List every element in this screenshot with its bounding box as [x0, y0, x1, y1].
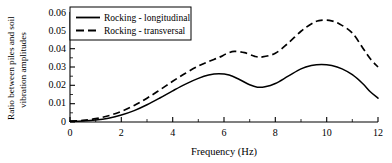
y-axis-title-line2: vibration amplitudes	[18, 32, 28, 108]
x-tick-label-8: 8	[273, 127, 278, 138]
legend: Rocking - longitudinal Rocking - transve…	[70, 7, 191, 40]
x-axis-title: Frequency (Hz)	[191, 146, 258, 158]
y-tick-label-0.06: 0.06	[49, 7, 67, 18]
x-tick-label-10: 10	[322, 127, 332, 138]
x-tick-label-6: 6	[222, 127, 227, 138]
y-tick-label-0.01: 0.01	[49, 97, 67, 108]
legend-label-rocking-transversal: Rocking - transversal	[104, 26, 186, 36]
x-axis-major-ticks	[70, 117, 378, 122]
y-axis-tick-labels: 0.06 0.05 0.04 0.03 0.02 0.01 0	[49, 7, 67, 127]
x-tick-label-4: 4	[170, 127, 175, 138]
y-tick-label-0.05: 0.05	[49, 25, 67, 36]
legend-label-rocking-longitudinal: Rocking - longitudinal	[104, 13, 190, 23]
y-tick-label-0: 0	[61, 116, 66, 127]
x-tick-label-2: 2	[119, 127, 124, 138]
x-tick-label-12: 12	[373, 127, 383, 138]
y-axis-title: Ratio between piles and soil vibration a…	[6, 16, 28, 120]
x-tick-label-0: 0	[68, 127, 73, 138]
x-axis-tick-labels: 0 2 4 6 8 10 12	[68, 127, 384, 138]
y-axis-title-line1: Ratio between piles and soil	[6, 16, 16, 120]
y-tick-label-0.03: 0.03	[49, 61, 67, 72]
line-chart: Ratio between piles and soil vibration a…	[0, 0, 392, 163]
chart-figure: Ratio between piles and soil vibration a…	[0, 0, 392, 163]
y-tick-label-0.04: 0.04	[49, 43, 67, 54]
y-tick-label-0.02: 0.02	[49, 79, 67, 90]
